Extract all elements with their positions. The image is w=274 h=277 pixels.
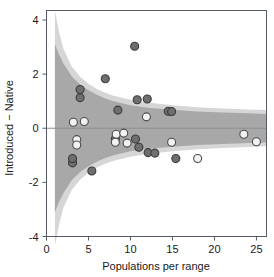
data-point bbox=[135, 143, 143, 151]
scatter-plot: 0510152025 -4-2024 Populations per range… bbox=[0, 0, 274, 277]
data-point bbox=[194, 155, 202, 163]
data-point bbox=[142, 113, 150, 121]
y-tick-label: 4 bbox=[32, 14, 38, 26]
y-tick-label: -2 bbox=[29, 176, 39, 188]
data-point bbox=[133, 96, 141, 104]
x-tick-label: 10 bbox=[124, 243, 136, 255]
y-tick-label: -4 bbox=[29, 231, 39, 243]
data-point bbox=[76, 86, 84, 94]
data-point bbox=[111, 138, 119, 146]
data-point bbox=[88, 167, 96, 175]
data-point bbox=[252, 138, 260, 146]
data-point bbox=[69, 118, 77, 126]
data-point bbox=[76, 94, 84, 102]
data-point bbox=[143, 95, 151, 103]
x-tick-label: 15 bbox=[166, 243, 178, 255]
data-point bbox=[112, 130, 120, 138]
y-tick-label: 0 bbox=[32, 122, 38, 134]
x-tick-label: 20 bbox=[208, 243, 220, 255]
data-point bbox=[114, 106, 122, 114]
figure-container: 0510152025 -4-2024 Populations per range… bbox=[0, 0, 274, 277]
y-axis-ticks: -4-2024 bbox=[29, 14, 47, 243]
data-point bbox=[240, 130, 248, 138]
data-point bbox=[73, 141, 81, 149]
data-point bbox=[120, 129, 128, 137]
data-point bbox=[151, 149, 159, 157]
y-tick-label: 2 bbox=[32, 68, 38, 80]
data-point bbox=[168, 138, 176, 146]
x-tick-label: 25 bbox=[250, 243, 262, 255]
data-point bbox=[123, 139, 131, 147]
y-axis-label: Introduced − Native bbox=[3, 80, 15, 176]
data-point bbox=[69, 155, 77, 163]
data-point bbox=[101, 75, 109, 83]
x-tick-label: 5 bbox=[85, 243, 91, 255]
data-point bbox=[168, 107, 176, 115]
data-point bbox=[131, 42, 139, 50]
x-axis-label: Populations per range bbox=[102, 260, 210, 272]
data-point bbox=[172, 155, 180, 163]
data-point bbox=[132, 135, 140, 143]
x-axis-ticks: 0510152025 bbox=[43, 237, 262, 255]
x-tick-label: 0 bbox=[43, 243, 49, 255]
data-point bbox=[80, 117, 88, 125]
